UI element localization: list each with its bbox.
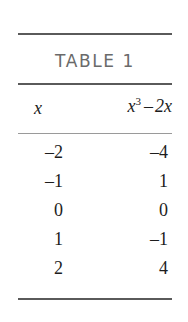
cell-x: –2 (18, 142, 63, 163)
cell-y: –4 (78, 142, 168, 163)
cell-y: 0 (78, 200, 168, 221)
expression-exponent: 3 (136, 95, 142, 107)
table-figure: TABLE 1 x x3–2x –2 –4 –1 1 0 0 1 –1 2 4 (0, 0, 188, 322)
table-row: 0 0 (18, 200, 172, 229)
cell-y: 1 (78, 171, 168, 192)
table-row: 2 4 (18, 258, 172, 287)
cell-y: 4 (78, 258, 168, 279)
cell-x: –1 (18, 171, 63, 192)
rule-below-caption (18, 83, 172, 85)
column-header-expression: x3–2x (128, 96, 173, 117)
table-header-row: x x3–2x (18, 92, 172, 128)
rule-top (18, 33, 172, 35)
expression-term: 2x (155, 96, 172, 116)
table-row: –1 1 (18, 171, 172, 200)
rule-below-header (18, 133, 172, 134)
cell-y: –1 (78, 229, 168, 250)
rule-bottom (18, 298, 172, 300)
expression-operator: – (144, 96, 153, 116)
cell-x: 0 (18, 200, 63, 221)
table-body: –2 –4 –1 1 0 0 1 –1 2 4 (18, 142, 172, 287)
column-header-x: x (34, 98, 42, 119)
table-caption: TABLE 1 (18, 41, 172, 81)
table-row: –2 –4 (18, 142, 172, 171)
expression-base: x (128, 96, 136, 116)
cell-x: 2 (18, 258, 63, 279)
table-row: 1 –1 (18, 229, 172, 258)
cell-x: 1 (18, 229, 63, 250)
